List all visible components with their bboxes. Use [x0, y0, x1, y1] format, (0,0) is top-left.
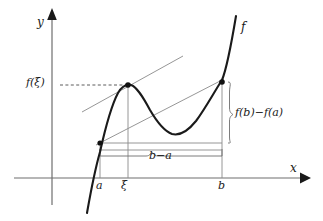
- y-axis-label: y: [37, 16, 44, 28]
- x-tick-label-a: a: [96, 180, 103, 191]
- x-tick-label-xi: ξ: [121, 180, 127, 191]
- point-b-fb: [219, 79, 225, 85]
- function-curve: [87, 16, 236, 213]
- rise-brace-path: [228, 82, 233, 143]
- rise-label: f(b)−f(a): [235, 107, 283, 118]
- secant-line: [96, 79, 224, 145]
- tangent-line: [82, 56, 183, 112]
- y-axis: [47, 8, 57, 205]
- f-xi-value-label: f(ξ): [26, 77, 45, 88]
- run-label: b−a: [149, 150, 172, 161]
- tick-drop-lines: [100, 82, 222, 178]
- x-tick-label-b: b: [218, 180, 225, 191]
- point-xi-fxi: [125, 82, 131, 88]
- marked-points: [97, 79, 224, 145]
- point-a-fa: [97, 140, 102, 145]
- y-axis-arrow-icon: [47, 8, 57, 20]
- mean-value-theorem-figure: y x f f(ξ) a ξ b f(b)−f(a) b−a: [0, 0, 323, 221]
- x-axis-label: x: [290, 162, 297, 174]
- x-axis: [14, 173, 311, 184]
- function-label: f: [241, 21, 245, 33]
- x-axis-arrow-icon: [300, 173, 311, 184]
- rise-brace: [228, 82, 233, 143]
